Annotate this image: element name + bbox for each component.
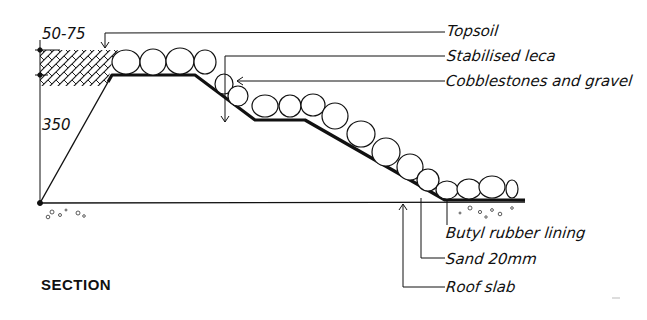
label-roof-slab: Roof slab <box>445 280 516 295</box>
section-title: SECTION <box>41 276 111 293</box>
label-stabilised-leca: Stabilised leca <box>446 49 556 64</box>
height-dimension-label: 350 <box>42 118 71 133</box>
label-cobblestones-gravel: Cobblestones and gravel <box>445 74 633 89</box>
label-butyl-rubber-lining: Butyl rubber lining <box>445 226 586 241</box>
gravel-texture <box>46 206 513 219</box>
roof-slab-line <box>40 202 525 203</box>
topsoil-depth-dimension: 50-75 <box>42 27 86 42</box>
topsoil-hatch <box>40 50 118 86</box>
cobblestones <box>112 48 518 199</box>
label-topsoil: Topsoil <box>446 24 499 39</box>
embankment-slope <box>40 82 108 203</box>
label-sand: Sand 20mm <box>445 252 537 267</box>
